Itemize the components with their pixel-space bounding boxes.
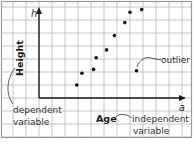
data-point <box>92 68 96 72</box>
outlier-label: outlier <box>161 55 190 65</box>
x-variable-letter: a <box>179 102 185 113</box>
data-point <box>105 48 109 52</box>
y-axis-label: Height <box>14 40 25 76</box>
data-point <box>140 8 144 12</box>
x-axis-label: Age <box>96 113 117 124</box>
data-point <box>75 83 79 87</box>
independent-variable-label-line1: independent <box>132 114 189 124</box>
dependent-variable-label-line2: variable <box>13 117 50 127</box>
dependent-variable-label-line1: dependent <box>13 105 62 115</box>
data-point <box>123 21 127 25</box>
independent-variable-label-line2: variable <box>133 126 170 136</box>
outlier-point <box>135 69 139 73</box>
data-point <box>80 72 84 76</box>
data-point <box>113 34 117 38</box>
y-variable-letter: h <box>31 8 37 19</box>
data-point <box>128 10 132 14</box>
data-point <box>94 56 98 60</box>
scatter-plot-figure: h a Height Age dependent variable indepe… <box>0 0 193 144</box>
